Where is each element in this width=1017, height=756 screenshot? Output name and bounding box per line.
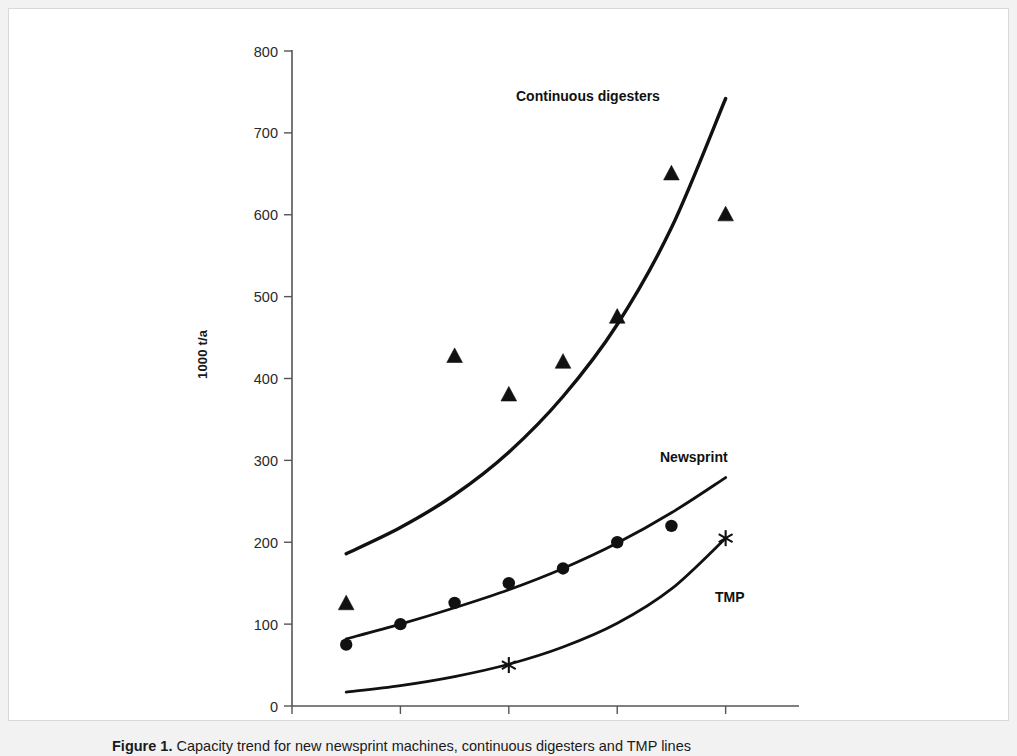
marker-circle — [340, 638, 352, 650]
figure-panel: 0100200300400500600700800195519651975198… — [8, 8, 1009, 721]
y-tick-label: 800 — [254, 44, 278, 60]
y-tick-label: 400 — [254, 371, 278, 387]
marker-triangle — [718, 206, 734, 221]
y-axis-title: 1000 t/a — [195, 219, 210, 379]
trend-curves-layer — [346, 98, 725, 692]
marker-triangle — [447, 348, 463, 363]
trend-curve-continuous-digesters — [346, 98, 725, 553]
y-tick-label: 300 — [254, 453, 278, 469]
y-tick-label: 0 — [270, 699, 278, 715]
figure-caption-label: Figure 1. — [112, 738, 172, 754]
series-markers-tmp — [502, 530, 733, 673]
plot-area: 0100200300400500600700800195519651975198… — [9, 9, 1010, 722]
marker-circle — [665, 520, 677, 532]
chart-canvas: 0100200300400500600700800195519651975198… — [9, 9, 1010, 722]
marker-triangle — [338, 595, 354, 610]
scanned-page-background: 0100200300400500600700800195519651975198… — [0, 0, 1017, 756]
figure-caption: Figure 1. Capacity trend for new newspri… — [112, 738, 1002, 755]
series-label-continuous-digesters: Continuous digesters — [516, 88, 660, 104]
marker-circle — [394, 618, 406, 630]
y-tick-label: 100 — [254, 617, 278, 633]
y-tick-label: 600 — [254, 207, 278, 223]
series-markers-continuous-digesters — [338, 165, 733, 609]
axes-layer — [292, 50, 799, 706]
marker-triangle — [664, 165, 680, 180]
marker-triangle — [555, 354, 571, 369]
y-tick-label: 200 — [254, 535, 278, 551]
trend-curve-newsprint — [346, 478, 725, 639]
series-label-newsprint: Newsprint — [660, 449, 728, 465]
y-tick-label: 500 — [254, 289, 278, 305]
marker-circle — [503, 577, 515, 589]
series-label-tmp: TMP — [715, 589, 745, 605]
y-tick-label: 700 — [254, 125, 278, 141]
data-markers-layer — [338, 165, 733, 673]
axis-ticks-layer — [284, 51, 726, 714]
marker-triangle — [501, 386, 517, 401]
marker-circle — [448, 597, 460, 609]
marker-circle — [557, 562, 569, 574]
marker-circle — [611, 536, 623, 548]
figure-caption-text: Capacity trend for new newsprint machine… — [176, 738, 690, 754]
trend-curve-tmp — [346, 538, 725, 692]
axis-tick-labels-layer: 0100200300400500600700800195519651975198… — [254, 44, 742, 723]
